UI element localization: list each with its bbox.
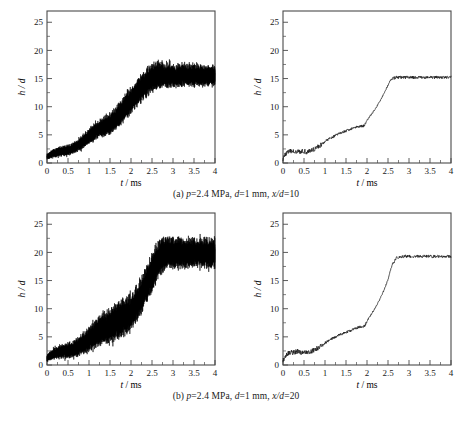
x-tick-label: 3: [407, 368, 412, 378]
figure-container: 00.511.522.533.540510152025h / dt / ms 0…: [0, 0, 472, 435]
x-tick-label: 4: [213, 368, 218, 378]
y-tick-label: 25: [270, 219, 280, 229]
x-tick-label: 1.5: [104, 368, 116, 378]
y-tick-label: 5: [39, 332, 44, 342]
caption-b-ratio-value: =20: [284, 391, 299, 401]
y-tick-label: 15: [34, 276, 44, 286]
x-tick-label: 2.5: [382, 368, 394, 378]
x-tick-label: 0.5: [62, 166, 74, 176]
x-tick-label: 0: [281, 368, 286, 378]
caption-a-ratio-value: =10: [284, 189, 299, 199]
plot-frame: [47, 213, 215, 365]
x-tick-label: 3: [407, 166, 412, 176]
x-tick-label: 1: [87, 368, 92, 378]
y-tick-label: 25: [34, 17, 44, 27]
panel-a-smooth: 00.511.522.533.540510152025h / dt / ms: [236, 0, 472, 186]
svg-text:h / d: h / d: [253, 78, 263, 95]
panel-row-a: 00.511.522.533.540510152025h / dt / ms 0…: [0, 0, 472, 186]
caption-a-pressure-value: =2.4 MPa,: [191, 189, 232, 199]
x-tick-label: 1.5: [340, 166, 352, 176]
caption-a-diameter-value: =1 mm,: [239, 189, 269, 199]
caption-b-ratio-symbol: x/d: [272, 391, 284, 401]
x-tick-label: 4: [449, 368, 454, 378]
y-tick-label: 5: [275, 130, 280, 140]
y-axis-label: h / d: [17, 280, 27, 297]
y-axis-label: h / d: [17, 78, 27, 95]
y-tick-label: 20: [270, 46, 280, 56]
panel-b-smooth: 00.511.522.533.540510152025h / dt / ms: [236, 202, 472, 388]
y-tick-label: 25: [34, 219, 44, 229]
y-tick-label: 0: [275, 158, 280, 168]
y-tick-label: 15: [270, 276, 280, 286]
x-tick-label: 3.5: [188, 166, 200, 176]
plot-b-smooth: 00.511.522.533.540510152025h / dt / ms: [236, 202, 472, 388]
plot-a-smooth: 00.511.522.533.540510152025h / dt / ms: [236, 0, 472, 186]
y-tick-label: 10: [270, 102, 280, 112]
caption-a-index: (a): [173, 189, 184, 199]
plot-frame: [47, 11, 215, 163]
caption-b-pressure-value: =2.4 MPa,: [191, 391, 232, 401]
y-axis-label: h / d: [253, 280, 263, 297]
x-tick-label: 4: [213, 166, 218, 176]
x-tick-label: 0.5: [62, 368, 74, 378]
y-tick-label: 15: [34, 74, 44, 84]
x-axis-label: t / ms: [120, 380, 141, 388]
plot-a-raw: 00.511.522.533.540510152025h / dt / ms: [0, 0, 236, 186]
y-tick-label: 0: [275, 360, 280, 370]
x-tick-label: 3.5: [188, 368, 200, 378]
x-tick-label: 2.5: [382, 166, 394, 176]
y-tick-label: 5: [275, 332, 280, 342]
svg-text:h / d: h / d: [17, 78, 27, 95]
x-tick-label: 2: [365, 166, 370, 176]
x-tick-label: 2: [129, 368, 134, 378]
caption-row-b: (b) p=2.4 MPa, d=1 mm, x/d=20: [0, 388, 472, 404]
plot-frame: [283, 213, 451, 365]
y-tick-label: 5: [39, 130, 44, 140]
x-tick-label: 3.5: [424, 368, 436, 378]
plot-frame: [283, 11, 451, 163]
x-tick-label: 2: [129, 166, 134, 176]
x-tick-label: 0: [281, 166, 286, 176]
x-tick-label: 3: [171, 166, 176, 176]
x-tick-label: 2.5: [146, 368, 158, 378]
data-trace-smooth: [283, 76, 451, 161]
x-tick-label: 1: [323, 166, 328, 176]
y-tick-label: 0: [39, 158, 44, 168]
x-tick-label: 0.5: [298, 166, 310, 176]
x-tick-label: 3: [171, 368, 176, 378]
data-trace-smooth: [283, 255, 451, 362]
x-tick-label: 0.5: [298, 368, 310, 378]
plot-b-raw: 00.511.522.533.540510152025h / dt / ms: [0, 202, 236, 388]
x-tick-label: 0: [45, 166, 50, 176]
caption-b-diameter-value: =1 mm,: [240, 391, 270, 401]
x-axis-label: t / ms: [356, 380, 377, 388]
caption-b-index: (b): [173, 391, 184, 401]
y-tick-label: 20: [34, 248, 44, 258]
y-tick-label: 10: [34, 102, 44, 112]
y-tick-label: 20: [34, 46, 44, 56]
y-tick-label: 15: [270, 74, 280, 84]
caption-row-a: (a) p=2.4 MPa, d=1 mm, x/d=10: [0, 186, 472, 202]
y-tick-label: 20: [270, 248, 280, 258]
x-tick-label: 3.5: [424, 166, 436, 176]
x-tick-label: 1: [87, 166, 92, 176]
x-axis-label: t / ms: [356, 178, 377, 186]
x-tick-label: 1.5: [340, 368, 352, 378]
x-tick-label: 2.5: [146, 166, 158, 176]
x-tick-label: 4: [449, 166, 454, 176]
y-tick-label: 25: [270, 17, 280, 27]
svg-text:h / d: h / d: [253, 280, 263, 297]
x-tick-label: 0: [45, 368, 50, 378]
x-axis-label: t / ms: [120, 178, 141, 186]
y-axis-label: h / d: [253, 78, 263, 95]
panel-b-raw: 00.511.522.533.540510152025h / dt / ms: [0, 202, 236, 388]
panel-a-raw: 00.511.522.533.540510152025h / dt / ms: [0, 0, 236, 186]
y-tick-label: 10: [270, 304, 280, 314]
y-tick-label: 0: [39, 360, 44, 370]
x-tick-label: 2: [365, 368, 370, 378]
caption-a-ratio-symbol: x/d: [272, 189, 284, 199]
svg-text:h / d: h / d: [17, 280, 27, 297]
panel-row-b: 00.511.522.533.540510152025h / dt / ms 0…: [0, 202, 472, 388]
x-tick-label: 1: [323, 368, 328, 378]
y-tick-label: 10: [34, 304, 44, 314]
